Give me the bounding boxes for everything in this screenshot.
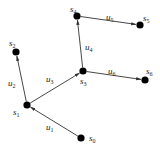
- node-label-s3: s3: [80, 76, 87, 87]
- edges-group: [17, 17, 141, 137]
- node-s3: [79, 67, 86, 74]
- edge-label-u2: u2: [8, 78, 16, 89]
- edge-label-u6: u6: [108, 66, 116, 77]
- node-label-s4: s4: [70, 4, 77, 15]
- node-label-s2: s2: [9, 38, 16, 49]
- edge-u2-arrow: [17, 56, 26, 101]
- node-s6: [141, 76, 148, 83]
- state-diagram: u1u2u3u4u5u6s0s1s2s3s4s5s6: [0, 0, 160, 148]
- node-label-s6: s6: [146, 66, 153, 77]
- node-s2: [12, 48, 19, 55]
- node-s0: [77, 134, 84, 141]
- node-label-s5: s5: [143, 13, 150, 24]
- node-s1: [23, 101, 30, 108]
- node-label-s1: s1: [13, 107, 20, 118]
- edge-u1-arrow: [30, 107, 77, 136]
- edge-label-u4: u4: [85, 42, 93, 53]
- edge-label-u5: u5: [106, 12, 114, 23]
- edge-label-u3: u3: [46, 74, 54, 85]
- node-label-s0: s0: [89, 133, 96, 144]
- edge-label-u1: u1: [46, 122, 54, 133]
- labels-group: u1u2u3u4u5u6s0s1s2s3s4s5s6: [8, 4, 153, 144]
- edge-u3-arrow: [30, 73, 79, 103]
- edge-u4-arrow: [77, 20, 82, 67]
